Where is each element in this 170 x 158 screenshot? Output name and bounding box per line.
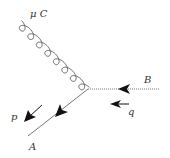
- label-p: p: [11, 111, 18, 122]
- momentum-q-arrow: [110, 100, 129, 108]
- feynman-diagram: μ C B q p A: [0, 0, 170, 158]
- label-gluon: μ C: [30, 8, 48, 19]
- label-b: B: [143, 74, 151, 85]
- fermion-line-a: [28, 89, 88, 136]
- label-a: A: [28, 141, 36, 152]
- scalar-line-b: [88, 84, 160, 94]
- momentum-p-arrow: [24, 105, 42, 122]
- label-q: q: [128, 106, 134, 117]
- gluon-line: [19, 21, 89, 90]
